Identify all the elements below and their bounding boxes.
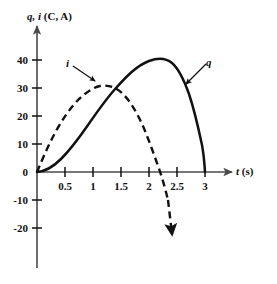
x-tick-label-2-5: 2.5 [163, 181, 191, 192]
y-tick-label-40: 40 [0, 55, 28, 66]
y-tick-label-30: 30 [0, 83, 28, 94]
curve-i-arrow [168, 200, 172, 234]
x-tick-label-2: 2 [135, 181, 163, 192]
plot-canvas [0, 0, 277, 284]
y-axis-title: q, i (C, A) [27, 11, 72, 22]
curve-label-q: q [206, 57, 212, 68]
leader-line-i [73, 66, 95, 81]
x-tick-label-1: 1 [79, 181, 107, 192]
x-tick-label-0-5: 0.5 [51, 181, 79, 192]
y-axis-units: (C, A) [44, 10, 72, 22]
y-tick-label-20: 20 [0, 111, 28, 122]
x-axis-title: t (s) [236, 166, 253, 177]
x-axis-unit: (s) [242, 165, 254, 177]
y-tick-label-0: 0 [0, 167, 28, 178]
y-tick-label-minus-10: -10 [0, 195, 28, 206]
y-tick-label-10: 10 [0, 139, 28, 150]
x-tick-label-1-5: 1.5 [107, 181, 135, 192]
y-tick-label-minus-20: -20 [0, 223, 28, 234]
y-axis-symbols: q, i [27, 10, 41, 22]
x-tick-label-3: 3 [191, 181, 219, 192]
chart-figure: q, i (C, A) t (s) 40 30 20 10 0 -10 -20 … [0, 0, 277, 284]
curve-label-i: i [66, 58, 69, 69]
curve-q [37, 59, 205, 172]
leader-line-q [186, 64, 206, 84]
